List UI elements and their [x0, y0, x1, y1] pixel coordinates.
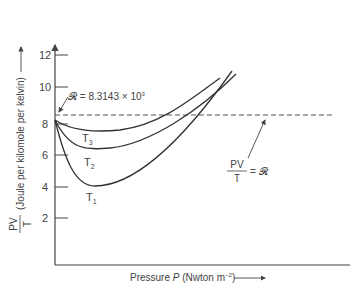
- pv-t-chart: 12 10 8 6 4 2 T3 T2 T1 𝓡 = 8.3143 × 103 …: [0, 0, 350, 292]
- svg-text:12: 12: [39, 49, 51, 61]
- svg-text:T: T: [234, 173, 240, 184]
- r-value-annotation: 𝓡 = 8.3143 × 103: [68, 91, 146, 102]
- svg-text:T: T: [22, 221, 33, 227]
- svg-text:4: 4: [42, 181, 48, 193]
- svg-text:PV: PV: [230, 159, 244, 170]
- y-tick-labels: 12 10 8 6 4 2: [39, 49, 51, 224]
- y-axis-label: PV T (Joule per kilomole per kelvin): [8, 47, 33, 233]
- svg-text:PV: PV: [8, 217, 19, 231]
- label-T1: T1: [86, 191, 97, 205]
- svg-text:8: 8: [42, 118, 48, 130]
- label-T2: T2: [84, 156, 95, 170]
- svg-text:= 𝓡: = 𝓡: [250, 166, 269, 177]
- svg-text:6: 6: [42, 149, 48, 161]
- svg-text:2: 2: [42, 212, 48, 224]
- r-arrow: [59, 97, 68, 112]
- label-T3: T3: [82, 132, 93, 146]
- svg-text:(Joule per kilomole per kelvin: (Joule per kilomole per kelvin): [15, 77, 26, 210]
- curve-T3: [55, 78, 220, 131]
- svg-text:10: 10: [39, 81, 51, 93]
- pvt-arrow: [248, 120, 265, 158]
- pvt-annotation: PV T = 𝓡: [227, 159, 269, 184]
- x-axis-label: Pressure P (Nwton m−2): [130, 272, 235, 283]
